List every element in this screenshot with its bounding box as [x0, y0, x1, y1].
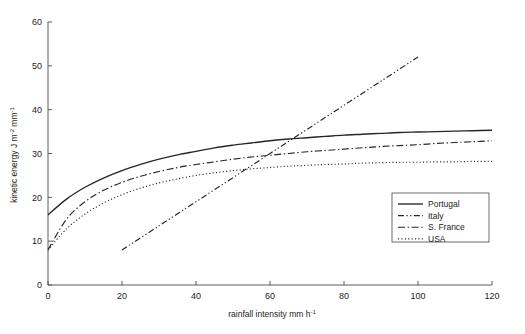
y-tick-label: 20 — [32, 193, 42, 203]
x-tick-label: 20 — [117, 291, 127, 301]
y-tick-label: 10 — [32, 236, 42, 246]
legend-label-italy: Italy — [428, 211, 444, 221]
x-tick-label: 120 — [484, 291, 499, 301]
x-axis-title: rainfall intensity mm h-1 — [228, 309, 316, 319]
chart-figure: 0102030405060 020406080100120 kinetic en… — [0, 0, 525, 334]
y-tick-label: 50 — [32, 61, 42, 71]
x-tick-label: 100 — [410, 291, 425, 301]
x-tick-label: 40 — [191, 291, 201, 301]
x-tick-label: 0 — [45, 291, 50, 301]
svg-text:kinetic energy J m-2 mm-1: kinetic energy J m-2 mm-1 — [9, 106, 19, 202]
series-line-italy — [122, 57, 418, 250]
chart-legend: PortugalItalyS. FranceUSA — [392, 193, 489, 244]
y-tick-label: 30 — [32, 149, 42, 159]
kinetic-energy-vs-rainfall-intensity-chart: 0102030405060 020406080100120 kinetic en… — [0, 0, 525, 334]
legend-label-usa: USA — [428, 234, 446, 244]
legend-label-s-france: S. France — [428, 222, 465, 232]
x-tick-label: 80 — [339, 291, 349, 301]
y-tick-label: 40 — [32, 105, 42, 115]
svg-text:rainfall intensity mm h-1: rainfall intensity mm h-1 — [228, 309, 316, 319]
y-tick-label: 0 — [37, 280, 42, 290]
x-tick-label: 60 — [265, 291, 275, 301]
y-axis-title: kinetic energy J m-2 mm-1 — [9, 106, 19, 202]
legend-label-portugal: Portugal — [428, 199, 460, 209]
x-axis-ticks: 020406080100120 — [45, 281, 499, 301]
y-tick-label: 60 — [32, 17, 42, 27]
